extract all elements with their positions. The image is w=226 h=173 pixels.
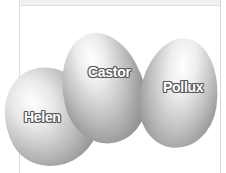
egg-label-castor: Castor [88,64,131,80]
frame-right-border [220,0,221,173]
frame-top-border [19,0,221,6]
egg-label-helen: Helen [24,109,61,125]
egg-label-pollux: Pollux [163,79,203,95]
